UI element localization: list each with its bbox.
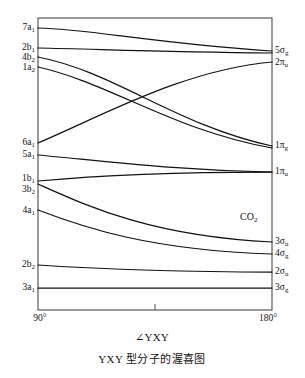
correlation-curves bbox=[38, 28, 272, 288]
right-orbital-label-3sigmag: 3σg bbox=[275, 283, 288, 293]
walsh-diagram-figure: 7a1 2b1 4b2 1a2 6a1 5a1 1b1 3b2 4a1 2b2 … bbox=[0, 0, 305, 378]
left-orbital-label-4a1: 4a1 bbox=[23, 206, 35, 216]
right-orbital-label-1pig: 1πg bbox=[275, 141, 288, 151]
curve-1b1-1piu bbox=[38, 172, 272, 181]
right-orbital-label-3sigmau: 3σu bbox=[275, 237, 288, 247]
left-orbital-label-3a1: 3a1 bbox=[23, 283, 35, 293]
molecule-annotation: CO2 bbox=[240, 211, 257, 222]
curve-4a1-4sigmag bbox=[38, 210, 272, 254]
left-orbital-label-7a1: 7a1 bbox=[23, 23, 35, 33]
x-axis-max-label: 180° bbox=[259, 313, 277, 323]
curve-7a1-5sigmag bbox=[38, 28, 272, 51]
curve-3b2-3sigmau bbox=[38, 184, 272, 242]
figure-caption: YXY 型分子的渥喜图 bbox=[98, 350, 206, 366]
right-orbital-label-4sigmag: 4σg bbox=[275, 249, 288, 259]
plot-frame bbox=[38, 18, 272, 310]
left-orbital-label-1a2: 1a2 bbox=[23, 63, 35, 73]
curve-4b2-1pig bbox=[38, 57, 272, 146]
right-orbital-label-2piu: 2πu bbox=[275, 58, 288, 68]
right-orbital-label-5sigmag: 5σg bbox=[275, 46, 288, 56]
curve-1a2-1pig bbox=[38, 67, 272, 148]
curve-2b2-2sigmau bbox=[38, 265, 272, 272]
x-axis-title: ∠YXY bbox=[135, 331, 169, 344]
left-orbital-label-1b1: 1b1 bbox=[22, 174, 35, 184]
left-orbital-label-5a1: 5a1 bbox=[23, 150, 35, 160]
right-orbital-label-2sigmau: 2σu bbox=[275, 267, 288, 277]
right-orbital-label-1piu: 1πu bbox=[275, 167, 288, 177]
left-orbital-label-6a1: 6a1 bbox=[23, 138, 35, 148]
x-axis-min-label: 90° bbox=[33, 313, 46, 323]
left-orbital-label-2b2: 2b2 bbox=[22, 260, 35, 270]
curve-5a1-1piu bbox=[38, 155, 272, 172]
left-orbital-label-3b2: 3b2 bbox=[22, 185, 35, 195]
